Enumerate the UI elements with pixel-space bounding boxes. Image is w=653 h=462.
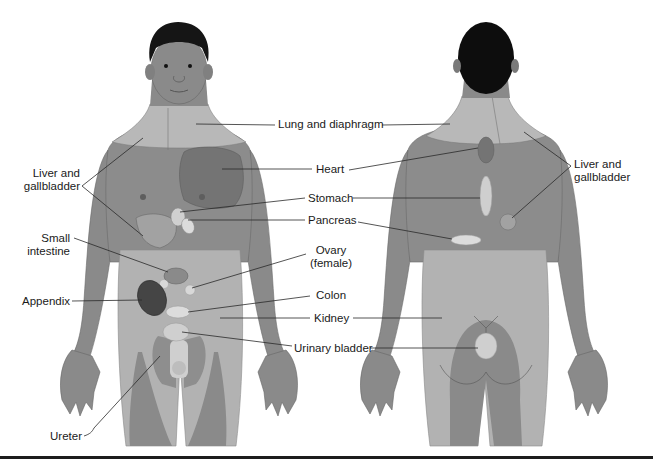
back-figure — [360, 22, 607, 446]
label-liver-left-line2: gallbladder — [10, 180, 80, 193]
label-lung-diaphragm: Lung and diaphragm — [278, 118, 384, 131]
back-ear-left — [453, 59, 461, 73]
label-small-intestine-line1: Small — [10, 232, 70, 245]
bottom-rule — [0, 456, 653, 459]
label-heart: Heart — [316, 163, 344, 176]
body-figures — [0, 0, 653, 462]
label-liver-right-line2: gallbladder — [574, 171, 630, 184]
leader-lung-back — [382, 124, 450, 125]
back-heart-area — [478, 137, 494, 163]
back-left-hand — [360, 350, 400, 416]
front-heart-area — [180, 147, 244, 208]
label-liver-gallbladder-left: Liver and gallbladder — [10, 167, 80, 193]
front-colon-area — [166, 306, 190, 318]
front-eye-right — [188, 64, 192, 68]
label-ovary-line1: Ovary — [309, 244, 353, 257]
back-bladder-area — [475, 333, 497, 359]
label-stomach: Stomach — [308, 192, 353, 205]
label-liver-gallbladder-right: Liver and gallbladder — [574, 158, 630, 184]
label-appendix: Appendix — [10, 295, 70, 308]
front-left-hand — [60, 350, 100, 416]
front-right-arm — [248, 150, 286, 362]
label-liver-right-line1: Liver and — [574, 158, 630, 171]
label-ureter: Ureter — [20, 430, 82, 443]
front-ear-left — [145, 64, 155, 80]
front-eye-left — [164, 64, 168, 68]
front-groin-circle — [172, 361, 186, 375]
label-small-intestine: Small intestine — [10, 232, 70, 258]
front-nipple-left — [140, 194, 146, 200]
back-pancreas-area — [451, 235, 481, 245]
label-ovary: Ovary (female) — [309, 244, 353, 270]
front-lung-diaphragm-area — [112, 104, 246, 148]
back-stomach-area — [480, 176, 492, 216]
front-small-intestine-area — [164, 268, 188, 284]
label-liver-left-line1: Liver and — [10, 167, 80, 180]
referred-pain-diagram: Lung and diaphragm Heart Stomach Pancrea… — [0, 0, 653, 462]
label-ovary-line2: (female) — [309, 257, 353, 270]
back-head — [458, 22, 514, 94]
front-figure — [60, 22, 297, 446]
back-right-hand — [568, 350, 608, 416]
back-ear-right — [511, 59, 519, 73]
label-urinary-bladder: Urinary bladder — [294, 342, 373, 355]
front-ovary-right — [185, 285, 195, 295]
back-left-arm — [372, 150, 410, 362]
front-nipple-right — [199, 194, 205, 200]
label-colon: Colon — [316, 289, 346, 302]
front-ear-right — [203, 64, 213, 80]
label-pancreas: Pancreas — [308, 214, 357, 227]
label-small-intestine-line2: intestine — [10, 245, 70, 258]
label-kidney: Kidney — [314, 312, 349, 325]
front-right-hand — [258, 350, 298, 416]
front-face — [151, 36, 207, 104]
